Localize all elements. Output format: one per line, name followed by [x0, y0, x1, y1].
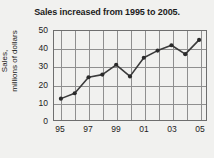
- sales-line-series: [54, 31, 206, 120]
- data-point-marker: [128, 74, 132, 78]
- y-tick-label: 50: [39, 25, 48, 35]
- chart-figure: Sales increased from 1995 to 2005. Sales…: [0, 0, 214, 158]
- data-point-marker: [183, 52, 187, 56]
- y-axis-label-line2: millions of dollars: [10, 15, 20, 107]
- data-point-marker: [197, 38, 201, 42]
- sales-line-path: [61, 40, 199, 99]
- data-point-marker: [73, 91, 77, 95]
- y-axis-label: Sales, millions of dollars: [0, 15, 30, 107]
- y-tick-label: 0: [43, 116, 48, 126]
- data-point-marker: [169, 43, 173, 47]
- y-axis-label-line1: Sales,: [0, 15, 10, 107]
- chart-title: Sales increased from 1995 to 2005.: [0, 7, 214, 17]
- plot-area: [53, 30, 207, 121]
- y-tick-label: 10: [39, 98, 48, 108]
- x-tick-label: 05: [195, 124, 204, 134]
- x-axis-tick-labels: 959799010305: [53, 124, 207, 138]
- data-point-marker: [100, 73, 104, 77]
- data-point-marker: [114, 63, 118, 67]
- data-point-marker: [86, 75, 90, 79]
- x-tick-label: 99: [111, 124, 120, 134]
- y-axis-tick-labels: 01020304050: [28, 24, 50, 128]
- y-tick-label: 30: [39, 61, 48, 71]
- data-point-marker: [156, 49, 160, 53]
- y-tick-label: 20: [39, 80, 48, 90]
- x-tick-label: 03: [167, 124, 176, 134]
- x-tick-label: 01: [139, 124, 148, 134]
- x-tick-label: 95: [55, 124, 64, 134]
- y-tick-label: 40: [39, 43, 48, 53]
- data-point-marker: [59, 97, 63, 101]
- data-point-marker: [142, 56, 146, 60]
- x-tick-label: 97: [83, 124, 92, 134]
